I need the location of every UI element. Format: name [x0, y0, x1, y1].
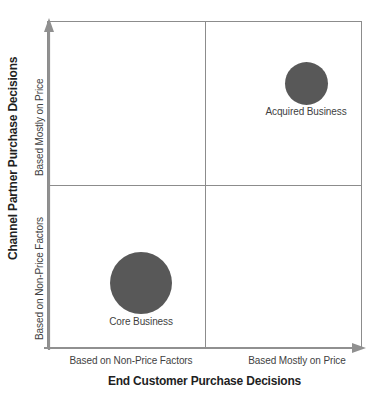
y-axis-label-high: Based Mostly on Price — [34, 79, 45, 176]
bubble-core-business — [110, 252, 172, 314]
y-axis-title: Channel Partner Purchase Decisions — [6, 57, 20, 260]
bubble-label-acquired-business: Acquired Business — [226, 106, 378, 117]
quadrant-divider-horizontal — [47, 185, 362, 186]
quadrant-matrix-chart: Core Business Acquired Business Based on… — [0, 0, 378, 394]
x-axis-label-high: Based Mostly on Price — [232, 355, 362, 366]
y-axis-arrow-icon — [44, 18, 54, 350]
x-axis-label-low: Based on Non-Price Factors — [57, 355, 205, 366]
x-axis-arrow-icon — [44, 343, 366, 353]
bubble-label-core-business: Core Business — [61, 316, 221, 327]
x-axis-title: End Customer Purchase Decisions — [47, 374, 362, 388]
bubble-acquired-business — [285, 62, 328, 105]
y-axis-label-low: Based on Non-Price Factors — [34, 217, 45, 340]
